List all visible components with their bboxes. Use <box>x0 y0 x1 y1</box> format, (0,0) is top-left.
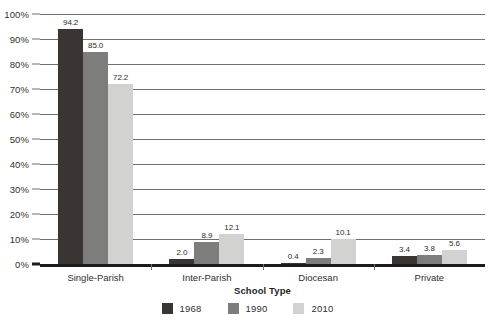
bar-group-bars: 2.08.912.1 <box>151 14 262 264</box>
x-axis-category-label: Single-Parish <box>40 272 151 283</box>
bar[interactable] <box>392 256 417 265</box>
chart-legend: 196819902010 <box>0 303 495 314</box>
bar-value-label: 85.0 <box>88 41 103 50</box>
y-axis-tick-label: 10% <box>10 234 29 245</box>
y-axis-tick-mark <box>32 263 40 266</box>
bar-value-label: 94.2 <box>63 18 78 27</box>
bar-group: 94.285.072.2 <box>40 14 151 264</box>
x-axis-title-text: School Type <box>234 285 291 296</box>
bar[interactable] <box>442 250 467 264</box>
bar-slot: 72.2 <box>108 14 133 264</box>
plot-area: 94.285.072.22.08.912.10.42.310.13.43.85.… <box>40 14 485 264</box>
bar-value-label: 5.6 <box>449 239 460 248</box>
bar-slot: 85.0 <box>83 14 108 264</box>
bar-slot: 8.9 <box>194 14 219 264</box>
y-axis-tick-label: 0% <box>15 259 29 270</box>
y-axis-tick-mark <box>32 64 40 65</box>
x-axis-tick-mark <box>374 264 375 270</box>
bar-slot: 3.4 <box>392 14 417 264</box>
bar-group: 3.43.85.6 <box>374 14 485 264</box>
bar-slot: 5.6 <box>442 14 467 264</box>
y-axis-tick-mark <box>32 139 40 140</box>
bar-chart: 100%90%80%70%60%50%40%30%20%10%0% 94.285… <box>0 0 495 323</box>
bar-slot: 10.1 <box>331 14 356 264</box>
y-axis-tick-mark <box>32 214 40 215</box>
legend-swatch-icon <box>162 303 173 314</box>
y-axis-tick-label: 100% <box>4 9 29 20</box>
x-axis-title: School Type <box>0 285 495 296</box>
y-axis-tick-label: 90% <box>10 34 29 45</box>
legend-swatch-icon <box>293 303 304 314</box>
y-axis-tick-mark <box>32 39 40 40</box>
bar-slot: 0.4 <box>281 14 306 264</box>
bar-slot: 12.1 <box>219 14 244 264</box>
legend-swatch-icon <box>228 303 239 314</box>
y-axis-tick-label: 80% <box>10 59 29 70</box>
legend-label: 1968 <box>180 303 202 314</box>
bar-value-label: 2.0 <box>176 248 187 257</box>
bar[interactable] <box>417 255 442 265</box>
y-axis-tick-mark <box>32 164 40 165</box>
bar[interactable] <box>194 242 219 264</box>
bar-value-label: 3.4 <box>399 245 410 254</box>
bar-value-label: 3.8 <box>424 244 435 253</box>
legend-label: 2010 <box>311 303 333 314</box>
y-axis-tick-label: 70% <box>10 84 29 95</box>
x-axis-category-label: Inter-Parish <box>151 272 262 283</box>
bar[interactable] <box>281 263 306 264</box>
bar-group-bars: 0.42.310.1 <box>263 14 374 264</box>
bar-value-label: 10.1 <box>336 228 351 237</box>
bar[interactable] <box>169 259 194 264</box>
bar[interactable] <box>306 258 331 264</box>
bar-groups: 94.285.072.22.08.912.10.42.310.13.43.85.… <box>40 14 485 264</box>
legend-label: 1990 <box>246 303 268 314</box>
x-axis-tick-mark <box>263 264 264 270</box>
y-axis-tick-label: 30% <box>10 184 29 195</box>
bar[interactable] <box>83 52 108 265</box>
legend-item[interactable]: 1990 <box>228 303 268 314</box>
x-axis-category-label: Private <box>374 272 485 283</box>
bar[interactable] <box>58 29 83 265</box>
y-axis-tick-label: 40% <box>10 159 29 170</box>
bar[interactable] <box>108 84 133 265</box>
bar-value-label: 8.9 <box>201 231 212 240</box>
bar[interactable] <box>219 234 244 264</box>
y-axis-tick-mark <box>32 189 40 190</box>
bar-slot: 94.2 <box>58 14 83 264</box>
bar-group-bars: 94.285.072.2 <box>40 14 151 264</box>
bar-value-label: 72.2 <box>113 73 128 82</box>
y-axis-tick-label: 60% <box>10 109 29 120</box>
x-axis-category-label: Diocesan <box>263 272 374 283</box>
legend-item[interactable]: 2010 <box>293 303 333 314</box>
bar-slot: 2.3 <box>306 14 331 264</box>
bar-value-label: 2.3 <box>313 247 324 256</box>
y-axis-tick-label: 50% <box>10 134 29 145</box>
x-axis-tick-mark <box>151 264 152 270</box>
bar-value-label: 12.1 <box>224 223 239 232</box>
bar[interactable] <box>331 239 356 264</box>
legend-item[interactable]: 1968 <box>162 303 202 314</box>
bar-slot: 2.0 <box>169 14 194 264</box>
y-axis-tick-mark <box>32 14 40 15</box>
bar-group: 2.08.912.1 <box>151 14 262 264</box>
y-axis-tick-mark <box>32 89 40 90</box>
bar-group-bars: 3.43.85.6 <box>374 14 485 264</box>
bar-group: 0.42.310.1 <box>263 14 374 264</box>
y-axis-tick-label: 20% <box>10 209 29 220</box>
bar-slot: 3.8 <box>417 14 442 264</box>
y-axis-tick-mark <box>32 239 40 240</box>
bar-value-label: 0.4 <box>288 252 299 261</box>
y-axis-tick-mark <box>32 114 40 115</box>
y-axis: 100%90%80%70%60%50%40%30%20%10%0% <box>0 0 40 323</box>
